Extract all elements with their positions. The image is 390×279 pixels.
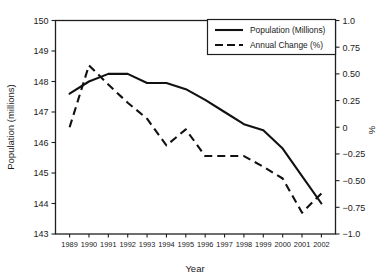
x-tick-label: 1992	[119, 240, 135, 249]
right-tick-label: −0.25	[343, 149, 366, 159]
left-tick-label: 147	[33, 107, 48, 117]
x-tick-label: 2002	[313, 240, 329, 249]
x-tick-label: 1989	[61, 240, 77, 249]
x-tick-label: 1999	[255, 240, 271, 249]
right-tick-label: −0.50	[343, 176, 366, 186]
left-tick-label: 143	[33, 229, 48, 239]
x-tick-label: 1994	[158, 240, 174, 249]
x-axis-title: Year	[185, 263, 204, 274]
right-tick-label: 0.75	[343, 43, 361, 53]
legend-label-annual-change: Annual Change (%)	[250, 40, 323, 50]
legend-label-population: Population (Millions)	[250, 25, 326, 35]
right-tick-label: −1.0	[343, 229, 361, 239]
right-tick-label: 0	[343, 123, 348, 133]
x-tick-label: 1997	[216, 240, 232, 249]
left-tick-label: 144	[33, 199, 48, 209]
x-tick-label: 2001	[294, 240, 310, 249]
left-tick-label: 150	[33, 16, 48, 26]
x-tick-label: 1990	[81, 240, 97, 249]
population-annual-change-line-chart: 143144145146147148149150 −1.0−0.75−0.50−…	[0, 0, 390, 279]
left-tick-label: 148	[33, 77, 48, 87]
right-tick-label: −0.75	[343, 203, 366, 213]
x-tick-label: 1993	[139, 240, 155, 249]
y2-axis-title: %	[366, 125, 377, 134]
y-axis-title: Population (millions)	[5, 84, 16, 170]
left-tick-label: 145	[33, 168, 48, 178]
right-tick-label: 1.0	[343, 16, 356, 26]
right-tick-label: 0.25	[343, 96, 361, 106]
x-tick-label: 1991	[100, 240, 116, 249]
x-tick-label: 1996	[197, 240, 213, 249]
left-tick-label: 149	[33, 46, 48, 56]
legend: Population (Millions) Annual Change (%)	[208, 20, 336, 55]
left-tick-label: 146	[33, 138, 48, 148]
x-tick-label: 1995	[178, 240, 194, 249]
right-tick-label: 0.50	[343, 69, 361, 79]
chart-container: 143144145146147148149150 −1.0−0.75−0.50−…	[0, 0, 390, 279]
x-tick-label: 2000	[274, 240, 290, 249]
x-tick-label: 1998	[236, 240, 252, 249]
